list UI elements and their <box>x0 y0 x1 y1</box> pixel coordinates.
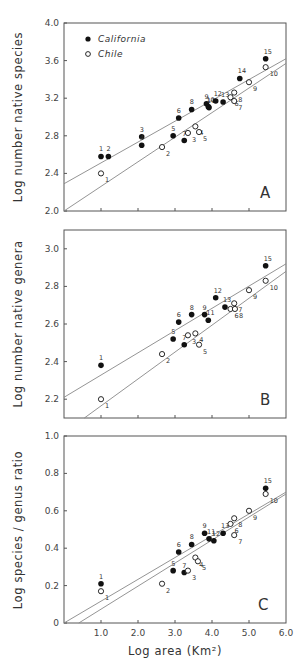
point-label: 2 <box>166 587 170 595</box>
x-tick-label: 2.0 <box>131 628 146 638</box>
point-label: 13 <box>223 296 231 304</box>
chile-point-icon <box>185 568 190 573</box>
chile-point-icon <box>232 90 237 95</box>
panel-c-ratio: 00.20.40.60.81.0 Log species / genus rat… <box>11 431 293 658</box>
california-point-icon <box>176 319 182 325</box>
chile-point-icon <box>232 301 237 306</box>
chile-point-icon <box>159 581 164 586</box>
point-label: 1 <box>105 402 109 410</box>
point-label: 6 <box>177 107 181 115</box>
panel-c-points: 1567891112131512345678910 <box>98 477 278 602</box>
chile-point-icon <box>193 331 198 336</box>
point-label: 3 <box>192 136 196 144</box>
point-label: 7 <box>238 104 242 112</box>
chile-point-icon <box>159 144 164 149</box>
y-tick-label: 3.2 <box>45 93 59 103</box>
point-label: 1 <box>105 594 109 602</box>
panel-b-points: 1567891112131512345678910 <box>98 255 278 410</box>
x-tick-labels: 1.02.03.04.05.06.0 <box>94 628 294 638</box>
point-label: 6 <box>177 541 181 549</box>
chile-point-icon <box>263 278 268 283</box>
point-label: 5 <box>202 564 206 572</box>
chile-point-icon <box>185 130 190 135</box>
california-point-icon <box>139 142 145 148</box>
point-label: 11 <box>206 309 214 317</box>
california-point-icon <box>206 317 212 323</box>
chile-point-icon <box>193 124 198 129</box>
california-point-icon <box>263 486 269 492</box>
point-label: 8 <box>190 304 194 312</box>
chile-point-icon <box>159 351 164 356</box>
california-point-icon <box>189 107 195 113</box>
california-point-icon <box>222 304 228 310</box>
chile-point-icon <box>232 98 237 103</box>
x-tick-label: 1.0 <box>94 628 109 638</box>
y-tick-label: 2.8 <box>45 281 60 291</box>
point-label: 2 <box>166 150 170 158</box>
chile-point-icon <box>246 288 251 293</box>
california-point-icon <box>237 76 243 82</box>
point-label: 15 <box>264 255 272 263</box>
x-tick-label: 6.0 <box>279 628 294 638</box>
chile-point-icon <box>232 533 237 538</box>
point-label: 5 <box>203 135 207 143</box>
legend-chile-marker-icon <box>86 52 91 57</box>
chile-point-icon <box>196 129 201 134</box>
y-tick-label: 0.6 <box>45 506 60 516</box>
panel-c-regression-lines <box>64 492 286 623</box>
california-point-icon <box>176 115 182 121</box>
california-regression-line <box>64 492 286 623</box>
panel-b-y-axis-label: Log number native genera <box>11 240 25 407</box>
y-tick-label: 2.2 <box>45 394 59 404</box>
chile-point-icon <box>195 559 200 564</box>
california-point-icon <box>98 363 104 369</box>
california-point-icon <box>189 312 195 318</box>
california-point-icon <box>98 581 104 587</box>
point-label: 3 <box>192 338 196 346</box>
point-label: 5 <box>203 348 207 356</box>
point-label: 5 <box>171 125 175 133</box>
california-point-icon <box>206 105 212 111</box>
chile-point-icon <box>196 342 201 347</box>
chile-point-icon <box>185 333 190 338</box>
california-point-icon <box>170 133 176 139</box>
panel-a-y-axis-label: Log number native species <box>11 32 25 202</box>
panel-a-species: 2.02.42.83.23.64.0 Log number native spe… <box>11 18 286 216</box>
panel-c-y-axis-label: Log species / genus ratio <box>11 451 25 609</box>
point-label: 1 <box>105 176 109 184</box>
point-label: 2 <box>166 357 170 365</box>
y-tick-label: 3.6 <box>45 56 60 66</box>
panel-a-letter: A <box>260 184 271 202</box>
y-tick-label: 0.4 <box>45 543 60 553</box>
y-tick-label: 2.0 <box>45 206 60 216</box>
legend-california-label: California <box>98 34 146 44</box>
point-label: 12 <box>214 287 222 295</box>
point-label: 14 <box>238 67 246 75</box>
x-axis-label: Log area (Km²) <box>128 644 222 658</box>
y-tick-label: 0.2 <box>45 581 59 591</box>
california-point-icon <box>170 568 176 574</box>
point-label: 2 <box>106 145 110 153</box>
point-label: 4 <box>140 134 144 142</box>
point-label: 9 <box>253 85 257 93</box>
y-tick-label: 1.0 <box>45 431 60 441</box>
x-tick-label: 3.0 <box>168 628 183 638</box>
california-regression-line <box>64 59 286 184</box>
point-label: 1 <box>99 573 103 581</box>
chile-point-icon <box>246 80 251 85</box>
california-point-icon <box>213 98 219 104</box>
chile-point-icon <box>98 589 103 594</box>
point-label: 10 <box>270 70 278 78</box>
california-point-icon <box>220 99 226 105</box>
chile-point-icon <box>98 397 103 402</box>
chile-point-icon <box>263 491 268 496</box>
point-label: 12 <box>212 530 220 538</box>
chile-point-icon <box>228 521 233 526</box>
california-point-icon <box>181 138 187 144</box>
california-point-icon <box>170 336 176 342</box>
california-point-icon <box>106 154 112 160</box>
chile-point-icon <box>263 65 268 70</box>
point-label: 7 <box>238 538 242 546</box>
point-label: 1 <box>99 354 103 362</box>
legend: California Chile <box>85 34 146 59</box>
